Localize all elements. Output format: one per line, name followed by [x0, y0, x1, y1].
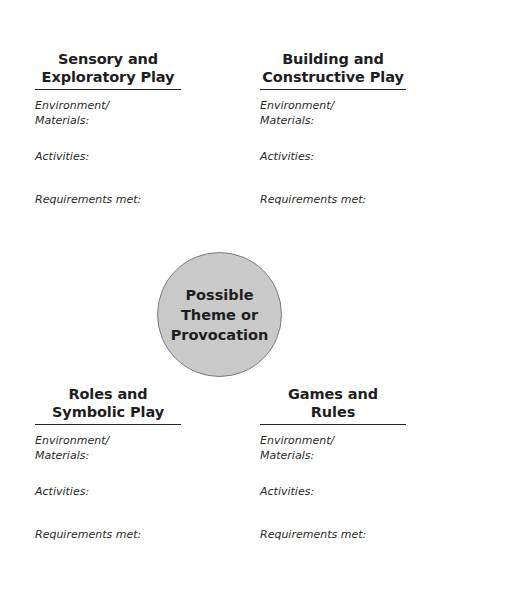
title-line: Sensory and: [35, 50, 181, 68]
environment-materials-label: Environment/ Materials:: [260, 433, 340, 463]
theme-provocation-circle: Possible Theme or Provocation: [157, 252, 282, 377]
environment-materials-label: Environment/ Materials:: [35, 98, 115, 128]
title-line: Exploratory Play: [35, 68, 181, 86]
center-line: Possible: [185, 285, 253, 305]
quadrant-title: Roles and Symbolic Play: [35, 385, 181, 425]
quadrant-title: Building and Constructive Play: [260, 50, 406, 90]
center-line: Provocation: [171, 325, 269, 345]
requirements-met-label: Requirements met:: [35, 192, 141, 207]
title-line: Constructive Play: [260, 68, 406, 86]
title-line: Building and: [260, 50, 406, 68]
activities-label: Activities:: [260, 149, 314, 164]
quadrant-games-rules: Games and Rules Environment/ Materials: …: [260, 385, 410, 435]
requirements-met-label: Requirements met:: [260, 192, 366, 207]
title-line: Rules: [260, 403, 406, 421]
activities-label: Activities:: [260, 484, 314, 499]
title-line: Games and: [260, 385, 406, 403]
quadrant-title: Games and Rules: [260, 385, 406, 425]
quadrant-sensory-exploratory-play: Sensory and Exploratory Play Environment…: [35, 50, 185, 100]
environment-materials-label: Environment/ Materials:: [260, 98, 340, 128]
quadrant-roles-symbolic-play: Roles and Symbolic Play Environment/ Mat…: [35, 385, 185, 435]
title-line: Roles and: [35, 385, 181, 403]
center-line: Theme or: [181, 305, 258, 325]
activities-label: Activities:: [35, 484, 89, 499]
environment-materials-label: Environment/ Materials:: [35, 433, 115, 463]
requirements-met-label: Requirements met:: [35, 527, 141, 542]
requirements-met-label: Requirements met:: [260, 527, 366, 542]
quadrant-building-constructive-play: Building and Constructive Play Environme…: [260, 50, 410, 100]
activities-label: Activities:: [35, 149, 89, 164]
quadrant-title: Sensory and Exploratory Play: [35, 50, 181, 90]
title-line: Symbolic Play: [35, 403, 181, 421]
